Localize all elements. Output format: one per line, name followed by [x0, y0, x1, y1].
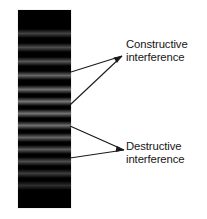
bright-fringe: [18, 43, 71, 52]
arrowhead-destructive: [116, 146, 124, 152]
bright-fringe: [18, 133, 71, 142]
annotation-destructive-line2: interference: [126, 153, 184, 166]
bright-fringe: [18, 169, 71, 178]
leader-line-constructive-1: [71, 56, 122, 72]
bright-fringe: [18, 29, 71, 38]
annotation-constructive-line2: interference: [126, 51, 188, 64]
bright-fringe: [18, 85, 71, 94]
leader-line-constructive-2: [70, 56, 122, 105]
bright-fringe: [18, 121, 71, 130]
bright-fringe: [18, 97, 71, 106]
leader-line-destructive-2: [70, 150, 124, 158]
arrowhead-constructive: [114, 56, 122, 63]
annotation-constructive-interference: Constructive interference: [126, 38, 188, 64]
annotation-destructive-interference: Destructive interference: [126, 140, 184, 166]
annotation-constructive-line1: Constructive: [126, 38, 188, 50]
interference-fringe-block: [18, 10, 71, 208]
bright-fringe: [18, 145, 71, 154]
bright-fringe: [18, 109, 71, 118]
bright-fringe: [18, 57, 71, 66]
interference-figure: Constructive interference Destructive in…: [0, 0, 207, 219]
leader-line-destructive-1: [70, 126, 124, 150]
bright-fringe: [18, 181, 71, 190]
annotation-destructive-line1: Destructive: [126, 140, 181, 152]
bright-fringe: [18, 157, 71, 166]
bright-fringe: [18, 71, 71, 80]
